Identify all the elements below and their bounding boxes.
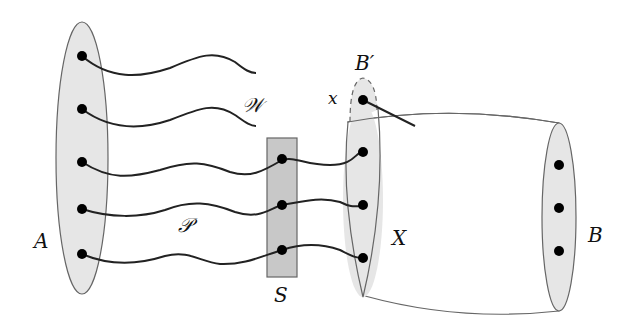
- vertex-x-2: [358, 200, 368, 210]
- diagram-canvas: A 𝒲 𝒫 S X B B′ x: [0, 0, 633, 326]
- path-w-1: [82, 55, 256, 75]
- vertex-x-3: [358, 253, 368, 263]
- vertex-a-1: [77, 51, 87, 61]
- vertex-b-1: [554, 160, 564, 170]
- label-a: A: [32, 229, 48, 253]
- vertex-s-2: [277, 200, 287, 210]
- set-b-ellipse: [542, 123, 576, 311]
- vertex-s-1: [277, 154, 287, 164]
- label-s: S: [274, 283, 288, 307]
- path-p-2: [82, 199, 363, 215]
- path-w-2: [82, 108, 256, 127]
- vertex-a-2: [77, 104, 87, 114]
- vertex-b-2: [554, 203, 564, 213]
- vertex-x-1: [358, 147, 368, 157]
- label-p: 𝒫: [178, 213, 198, 237]
- label-x-set: X: [390, 226, 407, 250]
- label-x-vertex: x: [328, 88, 338, 108]
- label-w: 𝒲: [242, 93, 268, 117]
- vertex-a-3: [77, 157, 87, 167]
- path-p-1: [82, 152, 363, 176]
- vertex-a-4: [77, 204, 87, 214]
- vertex-x: [358, 95, 368, 105]
- path-p-3: [82, 245, 363, 264]
- vertex-s-3: [277, 245, 287, 255]
- label-b-prime: B′: [354, 51, 375, 75]
- vertex-b-3: [554, 246, 564, 256]
- label-b: B: [587, 223, 603, 247]
- vertex-a-5: [77, 249, 87, 259]
